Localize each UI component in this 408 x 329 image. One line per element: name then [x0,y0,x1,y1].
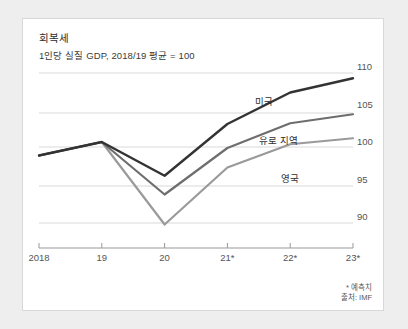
line-chart-svg [23,19,385,312]
footnote-source: 출처: IMF [341,293,372,303]
footnote-forecast-note: * 예측치 [341,283,372,293]
x-axis-tick-21f: 21* [220,252,234,263]
y-axis-tick-100: 100 [357,136,373,147]
chart-plot-area: 9095100105110 2018192021*22*23* 미국 유로 지역… [23,19,385,312]
x-axis-tick-19: 19 [97,252,108,263]
series-lines [39,78,353,224]
y-axis-tick-95: 95 [357,174,368,185]
x-axis-tick-20: 20 [159,252,170,263]
y-axis-tick-90: 90 [357,211,368,222]
series-line-euro [39,114,353,194]
series-label-euro: 유로 지역 [259,133,298,147]
series-line-us [39,78,353,176]
x-axis-tick-2018: 2018 [28,252,49,263]
series-label-uk: 영국 [281,171,299,185]
y-axis-tick-105: 105 [357,99,373,110]
chart-footnote: * 예측치 출처: IMF [341,283,372,303]
y-axis-tick-110: 110 [357,61,372,72]
x-axis-tick-22f: 22* [283,252,297,263]
chart-card: 회복세 1인당 실질 GDP, 2018/19 평균 = 100 [22,18,384,311]
series-label-us: 미국 [255,94,273,108]
x-axis [39,243,353,248]
gridlines [39,73,353,223]
x-axis-tick-23f: 23* [346,252,360,263]
